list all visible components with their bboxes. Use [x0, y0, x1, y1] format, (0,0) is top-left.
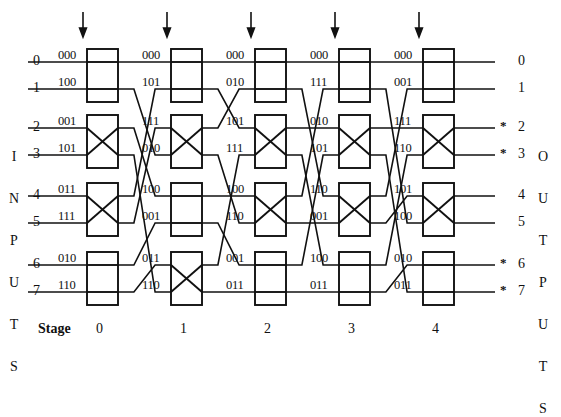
stage-arrow-head-1: [164, 28, 171, 37]
wire-tag-s2-r7: 011: [226, 279, 243, 292]
inputs-letter: P: [6, 234, 22, 248]
output-number-4: 4: [518, 188, 525, 202]
switch-box-s2-p3[interactable]: [255, 252, 286, 305]
output-number-2: 2: [518, 120, 525, 134]
inputs-letter: S: [6, 360, 22, 374]
wire-tag-s3-r1: 111: [310, 76, 327, 89]
wire-tag-s0-r5: 111: [58, 210, 75, 223]
stage-label: Stage: [38, 322, 71, 336]
wire-tag-s4-r5: 100: [394, 210, 412, 223]
outputs-letter: U: [534, 192, 552, 206]
wire-tag-s2-r5: 110: [226, 210, 243, 223]
switch-box-s4-p0[interactable]: [423, 49, 454, 102]
stage-number-0: 0: [96, 322, 103, 336]
wire-tag-s2-r4: 100: [226, 183, 244, 196]
wire-tag-s2-r0: 000: [226, 49, 244, 62]
switch-box-s3-p0[interactable]: [339, 49, 370, 102]
switch-box-s2-p0[interactable]: [255, 49, 286, 102]
inputs-letter: U: [6, 276, 22, 290]
output-number-0: 0: [518, 54, 525, 68]
stage-number-2: 2: [264, 322, 271, 336]
wire-tag-s1-r7: 110: [142, 279, 159, 292]
wire-tag-s0-r7: 110: [58, 279, 75, 292]
switch-box-s0-p0[interactable]: [87, 49, 118, 102]
wire-tag-s2-r1: 010: [226, 76, 244, 89]
wire-tag-s3-r5: 001: [310, 210, 328, 223]
input-number-3: 3: [33, 147, 40, 161]
stage-arrow-head-4: [416, 28, 423, 37]
stage-arrow-head-3: [332, 28, 339, 37]
outputs-letter: T: [534, 234, 552, 248]
wire-tag-s4-r4: 101: [394, 183, 412, 196]
input-number-0: 0: [33, 54, 40, 68]
switch-box-s1-p2[interactable]: [171, 183, 202, 236]
input-number-6: 6: [33, 257, 40, 271]
output-star-6: *: [500, 256, 507, 269]
stage-arrow-head-2: [248, 28, 255, 37]
inputs-letter: T: [6, 318, 22, 332]
output-number-7: 7: [518, 284, 525, 298]
wire-tag-s1-r1: 101: [142, 76, 160, 89]
wire-tag-s1-r3: 010: [142, 142, 160, 155]
wire-tag-s4-r3: 110: [394, 142, 411, 155]
wire-tag-s0-r6: 010: [58, 252, 76, 265]
input-number-1: 1: [33, 81, 40, 95]
wire-tag-s1-r2: 111: [142, 115, 159, 128]
wire-layer: [28, 62, 495, 292]
wire-tag-s0-r1: 100: [58, 76, 76, 89]
outputs-letter: S: [534, 402, 552, 416]
wire-tag-s2-r2: 101: [226, 115, 244, 128]
stage-number-4: 4: [432, 322, 439, 336]
input-number-2: 2: [33, 120, 40, 134]
wire-tag-s1-r6: 011: [142, 252, 159, 265]
output-number-3: 3: [518, 147, 525, 161]
outputs-letter: T: [534, 360, 552, 374]
wire-tag-s2-r3: 111: [226, 142, 243, 155]
wire-tag-s3-r6: 100: [310, 252, 328, 265]
wire-tag-s3-r2: 010: [310, 115, 328, 128]
wire-tag-s4-r6: 010: [394, 252, 412, 265]
wire-tag-s1-r5: 001: [142, 210, 160, 223]
inputs-label: I N P U T S: [6, 122, 22, 402]
stage-number-1: 1: [180, 322, 187, 336]
stage-arrow-head-0: [80, 28, 87, 37]
inputs-letter: N: [6, 192, 22, 206]
output-number-6: 6: [518, 257, 525, 271]
output-star-3: *: [500, 146, 507, 159]
wire-tag-s2-r6: 001: [226, 252, 244, 265]
wire-tag-s4-r0: 000: [394, 49, 412, 62]
wire-tag-s4-r7: 011: [394, 279, 411, 292]
outputs-label: O U T P U T S: [534, 122, 552, 417]
switch-box-s0-p3[interactable]: [87, 252, 118, 305]
wire-tag-s3-r4: 110: [310, 183, 327, 196]
wire-tag-s3-r3: 101: [310, 142, 328, 155]
switch-box-s1-p0[interactable]: [171, 49, 202, 102]
input-number-4: 4: [33, 188, 40, 202]
output-star-2: *: [500, 119, 507, 132]
switch-box-s4-p3[interactable]: [423, 252, 454, 305]
output-number-5: 5: [518, 215, 525, 229]
stage-arrow-layer: [80, 12, 423, 37]
link-s3-1: [370, 89, 423, 223]
wire-tag-s3-r7: 011: [310, 279, 327, 292]
wire-tag-s1-r0: 000: [142, 49, 160, 62]
wire-tag-s0-r4: 011: [58, 183, 75, 196]
wire-tag-s1-r4: 100: [142, 183, 160, 196]
wire-tag-s0-r2: 001: [58, 115, 76, 128]
outputs-letter: U: [534, 318, 552, 332]
outputs-letter: P: [534, 276, 552, 290]
wire-tag-s4-r2: 111: [394, 115, 411, 128]
switch-box-s3-p3[interactable]: [339, 252, 370, 305]
outputs-letter: O: [534, 150, 552, 164]
input-number-7: 7: [33, 284, 40, 298]
wire-tag-s4-r1: 001: [394, 76, 412, 89]
stage-number-3: 3: [348, 322, 355, 336]
inputs-letter: I: [6, 150, 22, 164]
output-number-1: 1: [518, 81, 525, 95]
wire-tag-s0-r0: 000: [58, 49, 76, 62]
wire-tag-s0-r3: 101: [58, 142, 76, 155]
input-number-5: 5: [33, 215, 40, 229]
wire-tag-s3-r0: 000: [310, 49, 328, 62]
